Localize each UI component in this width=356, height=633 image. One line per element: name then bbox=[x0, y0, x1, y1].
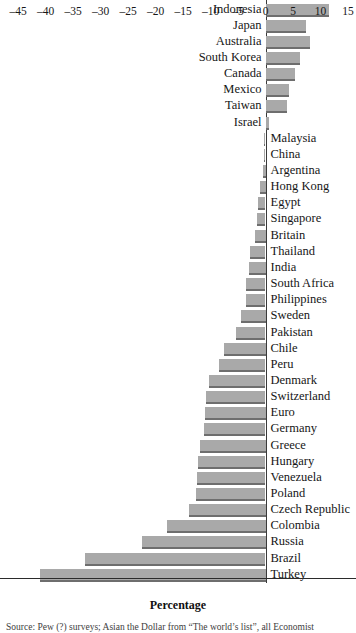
bar bbox=[266, 20, 306, 33]
bar-row: Philippines bbox=[0, 292, 356, 308]
bar bbox=[266, 68, 295, 81]
x-tick-label: 5 bbox=[278, 5, 308, 18]
category-label: Malaysia bbox=[271, 130, 317, 146]
bar-row: Egypt bbox=[0, 195, 356, 211]
x-tick-label: –20 bbox=[141, 5, 171, 18]
bar-row: Israel bbox=[0, 115, 356, 131]
bar-row: Taiwan bbox=[0, 98, 356, 114]
bar-row: Chile bbox=[0, 341, 356, 357]
x-tick-label: –25 bbox=[113, 5, 143, 18]
bar bbox=[250, 246, 265, 259]
bar-row: Argentina bbox=[0, 163, 356, 179]
category-label: South Korea bbox=[199, 49, 262, 65]
bar-row: India bbox=[0, 260, 356, 276]
x-axis-line bbox=[0, 578, 356, 579]
bar bbox=[85, 553, 265, 566]
bar bbox=[205, 407, 266, 420]
x-tick-label: 15 bbox=[333, 5, 356, 18]
category-label: Poland bbox=[271, 485, 306, 501]
x-tick-label: –10 bbox=[196, 5, 226, 18]
bar-row: Singapore bbox=[0, 211, 356, 227]
category-label: Colombia bbox=[271, 517, 320, 533]
category-label: Singapore bbox=[271, 210, 322, 226]
bar bbox=[249, 262, 266, 275]
x-tick-label: 0 bbox=[251, 5, 281, 18]
plot-area: IndonesiaJapanAustraliaSouth KoreaCanada… bbox=[0, 0, 356, 578]
category-label: Switzerland bbox=[271, 388, 331, 404]
bar bbox=[263, 165, 266, 178]
category-label: Mexico bbox=[223, 81, 261, 97]
category-label: Hong Kong bbox=[271, 178, 330, 194]
bar-row: Germany bbox=[0, 421, 356, 437]
bar-row: China bbox=[0, 147, 356, 163]
bar-row: Turkey bbox=[0, 567, 356, 583]
bar bbox=[197, 472, 265, 485]
category-label: Denmark bbox=[271, 372, 318, 388]
category-label: Pakistan bbox=[271, 324, 313, 340]
bar-row: Thailand bbox=[0, 244, 356, 260]
bar bbox=[257, 213, 266, 226]
category-label: Israel bbox=[234, 114, 262, 130]
bar-row: Sweden bbox=[0, 308, 356, 324]
bar bbox=[198, 456, 265, 469]
category-label: Argentina bbox=[271, 162, 321, 178]
category-label: South Africa bbox=[271, 275, 335, 291]
bar bbox=[200, 440, 266, 453]
bar-row: South Korea bbox=[0, 50, 356, 66]
bar-row: Colombia bbox=[0, 518, 356, 534]
bar bbox=[266, 100, 287, 113]
bar-row: Denmark bbox=[0, 373, 356, 389]
bar bbox=[260, 181, 266, 194]
category-label: Canada bbox=[224, 65, 261, 81]
bar bbox=[142, 536, 266, 549]
bar bbox=[255, 230, 266, 243]
category-label: Chile bbox=[271, 340, 298, 356]
x-tick-label: –35 bbox=[58, 5, 88, 18]
category-label: Australia bbox=[216, 33, 262, 49]
bar bbox=[258, 197, 266, 210]
bar-row: Pakistan bbox=[0, 325, 356, 341]
bar bbox=[264, 133, 265, 146]
bar-row: Malaysia bbox=[0, 131, 356, 147]
bar-row: Czech Republic bbox=[0, 502, 356, 518]
bar-row: Brazil bbox=[0, 551, 356, 567]
x-tick-label: 10 bbox=[306, 5, 336, 18]
x-tick-label: –30 bbox=[86, 5, 116, 18]
bar bbox=[266, 117, 269, 130]
bar bbox=[204, 423, 266, 436]
bar-row: Peru bbox=[0, 357, 356, 373]
category-label: Turkey bbox=[271, 566, 307, 582]
bar-row: Venezuela bbox=[0, 470, 356, 486]
bar bbox=[206, 391, 265, 404]
category-label: Egypt bbox=[271, 194, 301, 210]
bar bbox=[241, 310, 266, 323]
x-tick-label: –45 bbox=[3, 5, 33, 18]
bar-row: South Africa bbox=[0, 276, 356, 292]
bar bbox=[246, 278, 266, 291]
x-tick-label: –15 bbox=[168, 5, 198, 18]
bar-row: Mexico bbox=[0, 82, 356, 98]
x-tick-label: –5 bbox=[223, 5, 253, 18]
x-axis-title: Percentage bbox=[0, 598, 356, 613]
category-label: Peru bbox=[271, 356, 294, 372]
bar bbox=[209, 375, 265, 388]
bar-row: Hong Kong bbox=[0, 179, 356, 195]
bar bbox=[266, 52, 300, 65]
bar-row: Japan bbox=[0, 18, 356, 34]
bar bbox=[40, 569, 266, 582]
category-label: Germany bbox=[271, 420, 318, 436]
x-tick-label: –40 bbox=[31, 5, 61, 18]
bar bbox=[246, 294, 266, 307]
bar-row: Britain bbox=[0, 228, 356, 244]
bar-row: Greece bbox=[0, 438, 356, 454]
category-label: Brazil bbox=[271, 550, 302, 566]
category-label: Russia bbox=[271, 533, 304, 549]
category-label: Philippines bbox=[271, 291, 327, 307]
bar bbox=[266, 84, 289, 97]
category-label: Japan bbox=[233, 17, 261, 33]
category-label: India bbox=[271, 259, 297, 275]
bar bbox=[189, 504, 266, 517]
bar-row: Switzerland bbox=[0, 389, 356, 405]
bar-row: Hungary bbox=[0, 454, 356, 470]
category-label: Sweden bbox=[271, 307, 311, 323]
